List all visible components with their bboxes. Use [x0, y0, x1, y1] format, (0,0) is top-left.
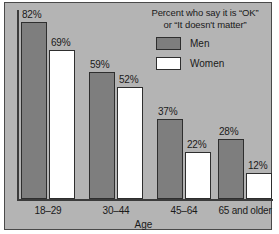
- bar-women-3: [246, 173, 272, 199]
- bar-value-women-0: 69%: [51, 37, 70, 48]
- bars-layer: 82%59%37%28%69%52%22%12%: [4, 2, 279, 199]
- bar-value-men-0: 82%: [22, 9, 41, 20]
- bar-value-women-1: 52%: [119, 74, 138, 85]
- bar-women-0: [49, 50, 75, 199]
- bar-men-3: [218, 139, 244, 199]
- bar-value-men-3: 28%: [219, 126, 238, 137]
- plot-area: Percent who say it is “OK” or “It doesn'…: [4, 2, 272, 230]
- bar-women-2: [185, 152, 211, 199]
- bar-men-2: [157, 119, 183, 199]
- x-tick-label-3: 65 and older: [205, 205, 279, 216]
- bar-men-0: [21, 22, 47, 199]
- bar-value-men-1: 59%: [90, 59, 109, 70]
- bar-men-1: [89, 72, 115, 199]
- bar-women-1: [117, 87, 143, 199]
- bar-chart: Percent who say it is “OK” or “It doesn'…: [0, 0, 279, 234]
- x-axis-line: [17, 199, 273, 201]
- bar-value-men-2: 37%: [158, 106, 177, 117]
- x-axis-title: Age: [4, 219, 279, 230]
- bar-value-women-3: 12%: [248, 160, 267, 171]
- bar-value-women-2: 22%: [187, 139, 206, 150]
